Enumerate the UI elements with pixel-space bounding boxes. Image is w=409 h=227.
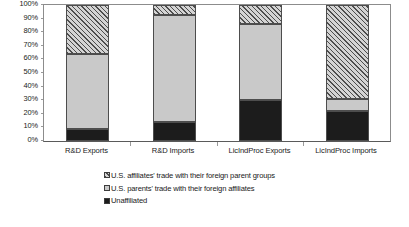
x-axis: R&D Exports R&D Imports LicIndProc Expor… xyxy=(43,146,391,160)
bar-group-licindproc-exports[interactable] xyxy=(239,5,282,141)
bar-segment-parents[interactable] xyxy=(66,54,109,129)
y-tick-label: 90% xyxy=(0,14,38,22)
x-tick-label: LicIndProc Exports xyxy=(216,146,303,156)
bar-segment-affiliates[interactable] xyxy=(239,5,282,24)
bar-group-rd-imports[interactable] xyxy=(153,5,196,141)
bar-stack xyxy=(153,5,196,141)
stacked-bar-chart: 100% 90% 80% 70% 60% 50% 40% 30% 20% 10%… xyxy=(0,0,409,227)
bar-segment-affiliates[interactable] xyxy=(66,5,109,54)
bar-stack xyxy=(66,5,109,141)
bar-stack xyxy=(326,5,369,141)
bar-segment-affiliates[interactable] xyxy=(326,5,369,99)
x-tick-label: LicIndProc Imports xyxy=(303,146,390,156)
y-tick-label: 100% xyxy=(0,0,38,8)
bar-segment-unaffiliated[interactable] xyxy=(239,100,282,141)
y-tick-label: 20% xyxy=(0,109,38,117)
bar-segment-parents[interactable] xyxy=(153,15,196,122)
bar-segment-unaffiliated[interactable] xyxy=(153,122,196,141)
bar-segment-parents[interactable] xyxy=(326,99,369,111)
y-tick-label: 80% xyxy=(0,27,38,35)
bar-group-rd-exports[interactable] xyxy=(66,5,109,141)
bar-segment-parents[interactable] xyxy=(239,24,282,100)
legend-item-parents[interactable]: U.S. parents' trade with their foreign a… xyxy=(104,183,364,196)
x-tick-label: R&D Imports xyxy=(130,146,217,156)
y-axis: 100% 90% 80% 70% 60% 50% 40% 30% 20% 10%… xyxy=(0,4,38,142)
bar-segment-unaffiliated[interactable] xyxy=(326,111,369,141)
x-tick-label: R&D Exports xyxy=(43,146,130,156)
legend-item-affiliates[interactable]: U.S. affiliates' trade with their foreig… xyxy=(104,170,364,183)
bar-segment-unaffiliated[interactable] xyxy=(66,129,109,141)
legend-label: U.S. parents' trade with their foreign a… xyxy=(111,183,254,194)
bar-segment-affiliates[interactable] xyxy=(153,5,196,15)
legend-item-unaffiliated[interactable]: Unaffiliated xyxy=(104,195,364,208)
legend-swatch-black-icon xyxy=(104,198,110,204)
y-tick-label: 70% xyxy=(0,41,38,49)
bar-group-licindproc-imports[interactable] xyxy=(326,5,369,141)
bars-layer xyxy=(44,5,390,141)
legend-swatch-hatch-icon xyxy=(104,172,110,178)
legend-label: U.S. affiliates' trade with their foreig… xyxy=(111,170,275,181)
y-tick-label: 30% xyxy=(0,95,38,103)
y-tick-label: 50% xyxy=(0,68,38,76)
y-tick-label: 60% xyxy=(0,54,38,62)
chart-legend: U.S. affiliates' trade with their foreig… xyxy=(104,170,364,208)
bar-stack xyxy=(239,5,282,141)
legend-label: Unaffiliated xyxy=(111,195,147,206)
y-tick-label: 40% xyxy=(0,82,38,90)
y-tick-label: 10% xyxy=(0,122,38,130)
y-tick-label: 0% xyxy=(0,136,38,144)
legend-swatch-gray-icon xyxy=(104,185,110,191)
plot-wrapper: 100% 90% 80% 70% 60% 50% 40% 30% 20% 10%… xyxy=(0,4,409,152)
